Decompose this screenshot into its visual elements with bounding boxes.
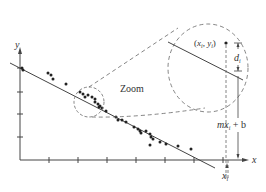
axes [17, 47, 249, 163]
data-point [177, 145, 180, 148]
data-point [22, 69, 25, 72]
data-point [47, 72, 50, 75]
least-squares-diagram: y x Zoom (xi, yi) di mxi + b xi [0, 0, 266, 192]
data-point [52, 78, 55, 81]
data-point [50, 74, 53, 77]
x-arrow-icon [242, 158, 249, 162]
data-point [105, 110, 108, 113]
y-axis-label: y [14, 39, 20, 50]
data-point [152, 138, 155, 141]
data-point [145, 130, 148, 133]
data-point [159, 141, 162, 144]
xi-label: xi [221, 170, 228, 182]
line-value-label: mxi + b [217, 119, 246, 131]
data-point [133, 126, 136, 129]
zoom-connector-top [89, 28, 178, 87]
line-value-arrow [237, 76, 240, 159]
data-point [121, 119, 124, 122]
data-point [165, 143, 168, 146]
zoomed-data-point [224, 41, 227, 44]
x-axis-label: x [251, 154, 257, 165]
zoom-connector-bottom [92, 108, 205, 117]
data-point [79, 91, 82, 94]
data-point [117, 119, 120, 122]
data-point [149, 144, 152, 147]
data-point [149, 133, 152, 136]
data-point [91, 96, 94, 99]
data-point [65, 83, 68, 86]
data-points [21, 67, 193, 151]
zoom-label: Zoom [120, 83, 144, 94]
distance-label: di [234, 52, 241, 64]
regression-line [10, 63, 215, 168]
data-point [94, 98, 97, 101]
data-point [190, 148, 193, 151]
zoom-source-circle [74, 87, 104, 117]
data-point [84, 96, 87, 99]
point-label: (xi, yi) [194, 38, 216, 49]
data-point [125, 121, 128, 124]
data-point [87, 94, 90, 97]
data-point [94, 101, 97, 104]
data-point [140, 132, 143, 135]
data-point [82, 93, 85, 96]
